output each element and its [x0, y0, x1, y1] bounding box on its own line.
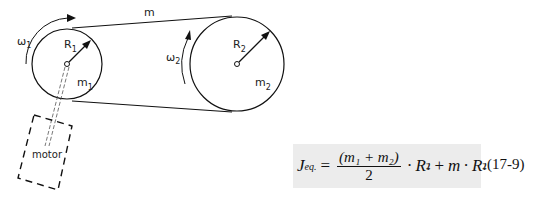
arrowhead-icon: [67, 14, 76, 22]
omega-1-label: ω: [17, 35, 26, 48]
mass-2-label: m: [255, 76, 266, 89]
belt-bottom: [72, 101, 232, 112]
equation-number: (17-9): [487, 156, 525, 173]
mass-1-label: m: [77, 76, 88, 89]
equivalent-inertia-formula: Jeq. = (m₁ + m₂) 2 · R12 + m · R12: [297, 146, 487, 186]
svg-text:m: m: [144, 6, 155, 19]
arrowhead-icon: [185, 30, 191, 40]
pulley-1-center: [65, 62, 70, 67]
pulley-diagram: m ω1 R1 m1 ω2 R2 m2 motor: [0, 0, 300, 198]
svg-text:ω1: ω1: [17, 35, 31, 50]
omega-2-arrow: [182, 38, 188, 84]
svg-text:ω2: ω2: [166, 51, 180, 66]
omega-2-label: ω: [166, 51, 175, 64]
belt-mass-label: m: [144, 6, 155, 19]
pulley-2-center: [235, 62, 240, 67]
formula-fraction: (m₁ + m₂) 2: [337, 149, 401, 184]
motor-label: motor: [32, 149, 63, 160]
formula-lhs: J: [297, 156, 305, 176]
